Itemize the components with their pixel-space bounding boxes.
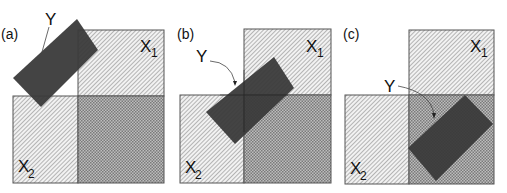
y-pointer-arrow (210, 61, 235, 82)
x1-subscript: 1 (151, 46, 158, 60)
x1-x2-overlap (78, 96, 164, 183)
y-label: Y (196, 47, 207, 66)
panel-label: (b) (177, 26, 194, 42)
x2-subscript: 2 (195, 168, 202, 182)
panel-b: (b) Y X 1 X 2 (177, 26, 331, 183)
x1-label: X (306, 37, 317, 56)
panel-label: (a) (1, 26, 18, 42)
panel-a: (a) Y X 1 X 2 (1, 10, 164, 183)
y-label: Y (384, 77, 395, 96)
x1-label: X (140, 37, 151, 56)
venn-diagram-figure: (a) Y X 1 X 2 (b) Y X 1 X 2 (c) Y X 1 X (0, 0, 507, 193)
panel-c: (c) Y X 1 X 2 (343, 26, 494, 184)
x2-subscript: 2 (28, 167, 35, 181)
x1-subscript: 1 (317, 46, 324, 60)
y-label: Y (45, 10, 56, 29)
x1-label: X (470, 37, 481, 56)
arrowhead-icon (233, 81, 237, 86)
x2-subscript: 2 (360, 169, 367, 183)
x1-subscript: 1 (481, 46, 488, 60)
panel-label: (c) (343, 26, 359, 42)
